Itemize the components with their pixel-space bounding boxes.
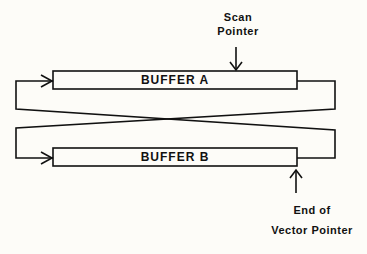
end-vector-line2: Vector Pointer bbox=[262, 220, 362, 240]
end-vector-pointer-label: End of Vector Pointer bbox=[262, 200, 362, 240]
buffer-b-label: BUFFER B bbox=[53, 150, 297, 164]
b-to-a-loop bbox=[16, 81, 335, 158]
scan-pointer-line2: Pointer bbox=[200, 24, 276, 38]
end-vector-line1: End of bbox=[262, 200, 362, 220]
scan-pointer-line1: Scan bbox=[200, 10, 276, 24]
scan-pointer-label: Scan Pointer bbox=[200, 10, 276, 38]
buffer-a-label: BUFFER A bbox=[53, 73, 297, 87]
